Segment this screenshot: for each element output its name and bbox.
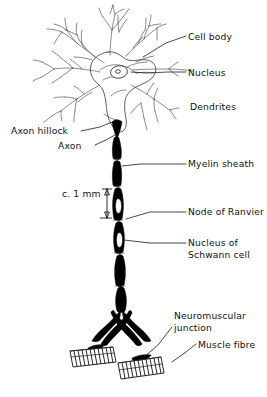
myelin-segment <box>116 287 127 313</box>
neuron-diagram: Cell body Nucleus Dendrites Axon hillock… <box>0 0 267 397</box>
myelin-segment <box>115 255 126 287</box>
label-axon: Axon <box>58 140 82 151</box>
label-schwann-nucleus-line1: Nucleus of <box>188 237 238 248</box>
label-node-of-ranvier: Node of Ranvier <box>188 206 264 217</box>
label-schwann-nucleus-line2: Schwann cell <box>188 249 250 260</box>
schwann-cell-nucleus <box>116 199 121 213</box>
neuron-diagram-canvas: Cell body Nucleus Dendrites Axon hillock… <box>0 0 267 397</box>
label-axon-hillock: Axon hillock <box>11 125 69 136</box>
label-neuromuscular-junction-line2: junction <box>173 322 212 333</box>
nucleolus-dot <box>115 69 120 73</box>
label-dendrites: Dendrites <box>190 101 236 112</box>
myelin-segment <box>112 161 121 187</box>
schwann-cell-nucleus-labeled <box>117 233 122 247</box>
label-scale: c. 1 mm <box>62 188 101 199</box>
label-myelin-sheath: Myelin sheath <box>188 158 254 169</box>
label-muscle-fibre: Muscle fibre <box>198 339 256 350</box>
label-cell-body: Cell body <box>188 31 233 42</box>
label-neuromuscular-junction-line1: Neuromuscular <box>174 310 246 321</box>
label-nucleus: Nucleus <box>188 67 226 78</box>
